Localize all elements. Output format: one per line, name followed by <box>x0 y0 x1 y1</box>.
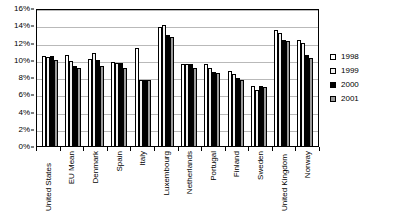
x-axis-label-cell: Sweden <box>248 151 272 213</box>
x-axis-label-cell: United States <box>36 151 60 213</box>
x-axis-label: Spain <box>114 151 123 171</box>
bar <box>77 68 81 146</box>
bar-group <box>271 10 294 146</box>
y-axis-tick-label: 0% <box>18 143 30 151</box>
bar <box>216 73 220 146</box>
y-axis-tick-label: 14% <box>14 22 30 30</box>
y-axis-tick <box>31 95 34 96</box>
legend-label: 2001 <box>341 95 359 103</box>
bar-group <box>224 10 247 146</box>
legend: 1998199920002001 <box>330 50 396 106</box>
y-axis-tick <box>31 112 34 113</box>
legend-label: 2000 <box>341 81 359 89</box>
x-axis-label-cell: EU Mean <box>60 151 84 213</box>
x-axis-label-cell: Netherlands <box>177 151 201 213</box>
y-axis-tick-label: 4% <box>18 109 30 117</box>
bar <box>123 68 127 146</box>
bar-group <box>85 10 108 146</box>
y-axis-tick <box>31 26 34 27</box>
legend-swatch-icon <box>330 54 336 60</box>
y-axis-tick <box>31 9 34 10</box>
legend-item[interactable]: 2001 <box>330 92 396 106</box>
y-axis-tick-label: 8% <box>18 74 30 82</box>
x-axis-label: Italy <box>138 151 147 166</box>
plot-area <box>36 9 319 147</box>
bar <box>54 60 58 146</box>
y-axis-tick <box>31 129 34 130</box>
x-axis-label-cell: Italy <box>130 151 154 213</box>
y-axis-tick <box>31 78 34 79</box>
x-axis-label: Luxembourg <box>161 151 170 195</box>
bar <box>147 80 151 146</box>
bar <box>286 41 290 146</box>
legend-item[interactable]: 1998 <box>330 50 396 64</box>
bar-group <box>201 10 224 146</box>
x-axis-label: Norway <box>303 151 312 178</box>
legend-item[interactable]: 2000 <box>330 78 396 92</box>
y-axis-tick-label: 12% <box>14 40 30 48</box>
legend-label: 1999 <box>341 67 359 75</box>
y-axis-tick-label: 16% <box>14 5 30 13</box>
y-axis-tick-label: 6% <box>18 91 30 99</box>
x-axis-label: United Kingdom <box>279 151 288 211</box>
x-axis-label: EU Mean <box>67 151 76 184</box>
y-axis-tick <box>31 43 34 44</box>
bar-group <box>294 10 317 146</box>
legend-item[interactable]: 1999 <box>330 64 396 78</box>
x-axis-label: Denmark <box>90 151 99 183</box>
x-axis-label-cell: United Kingdom <box>272 151 296 213</box>
x-axis-label-cell: Finland <box>225 151 249 213</box>
bar-group <box>154 10 177 146</box>
bar-group <box>247 10 270 146</box>
bar <box>100 66 104 146</box>
bar <box>240 80 244 146</box>
legend-label: 1998 <box>341 53 359 61</box>
bar <box>309 58 313 146</box>
bar-group <box>178 10 201 146</box>
bar <box>263 87 267 146</box>
bar-group <box>38 10 61 146</box>
x-axis-labels: United StatesEU MeanDenmarkSpainItalyLux… <box>36 151 319 213</box>
x-axis-label-cell: Portugal <box>201 151 225 213</box>
legend-swatch-icon <box>330 82 336 88</box>
bar-group <box>108 10 131 146</box>
legend-swatch-icon <box>330 96 336 102</box>
x-axis-label: Portugal <box>208 151 217 181</box>
legend-swatch-icon <box>330 68 336 74</box>
x-axis-label-cell: Spain <box>107 151 131 213</box>
y-axis-tick-label: 2% <box>18 126 30 134</box>
bar-chart: 0%2%4%6%8%10%12%14%16% United StatesEU M… <box>0 0 401 218</box>
bar <box>193 68 197 146</box>
y-axis: 0%2%4%6%8%10%12%14%16% <box>0 9 34 147</box>
y-axis-tick <box>31 60 34 61</box>
x-axis-tick <box>319 147 320 151</box>
x-axis-label: Sweden <box>255 151 264 180</box>
y-axis-tick <box>31 147 34 148</box>
bar-group <box>131 10 154 146</box>
x-axis-label-cell: Denmark <box>83 151 107 213</box>
x-axis-label-cell: Luxembourg <box>154 151 178 213</box>
bar-group <box>61 10 84 146</box>
y-axis-tick-label: 10% <box>14 57 30 65</box>
x-axis-label-cell: Norway <box>295 151 319 213</box>
x-axis-label: Netherlands <box>185 151 194 194</box>
bar <box>170 37 174 146</box>
plot-outer <box>36 9 319 147</box>
bar-groups <box>37 10 318 146</box>
x-axis-label: Finland <box>232 151 241 177</box>
x-axis-label: United States <box>43 151 52 211</box>
